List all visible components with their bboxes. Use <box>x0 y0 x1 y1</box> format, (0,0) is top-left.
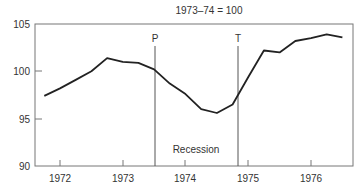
y-tick-label: 90 <box>19 161 31 172</box>
y-tick-label: 95 <box>19 114 31 125</box>
chart-title: 1973–74 = 100 <box>175 5 242 16</box>
x-axis: 1972 1973 1974 1975 1976 <box>49 160 323 184</box>
y-tick-label: 100 <box>13 66 30 77</box>
x-tick-label: 1974 <box>174 173 197 184</box>
x-tick-label: 1976 <box>300 173 323 184</box>
peak-marker: P <box>152 33 159 166</box>
x-tick-label: 1975 <box>237 173 260 184</box>
trough-label: T <box>235 33 241 44</box>
line-chart: 1973–74 = 100 105 100 95 90 1972 1973 19… <box>0 0 364 191</box>
y-tick-label: 105 <box>13 19 30 30</box>
x-tick-label: 1973 <box>112 173 135 184</box>
peak-label: P <box>152 33 159 44</box>
x-tick-label: 1972 <box>49 173 72 184</box>
recession-label: Recession <box>173 144 220 155</box>
index-series-line <box>44 34 342 113</box>
y-axis: 105 100 95 90 <box>13 19 42 172</box>
